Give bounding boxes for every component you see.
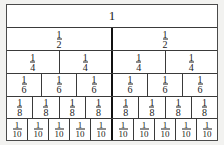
row-tenths-cell: 110	[28, 119, 49, 140]
fraction-numerator: 1	[15, 121, 20, 129]
fraction-label: 18	[70, 98, 75, 117]
fraction-label: 110	[119, 121, 128, 138]
fraction-numerator: 1	[142, 121, 147, 129]
fraction-label: 16	[163, 75, 168, 94]
fraction-denominator: 2	[163, 38, 168, 48]
row-eighths-cell: 18	[33, 97, 59, 119]
fraction-label: 110	[34, 121, 43, 138]
row-tenths-cell: 110	[91, 119, 113, 140]
row-sixths-cell: 16	[183, 74, 217, 96]
fraction-denominator: 2	[57, 38, 62, 48]
fraction-label: 18	[17, 98, 22, 117]
fraction-wall-diagram: 1121214141414161616161616181818181818181…	[0, 0, 224, 145]
row-sixths-cell: 16	[42, 74, 77, 96]
row-halves: 1212	[7, 28, 217, 52]
fraction-label: 110	[76, 121, 85, 138]
fraction-denominator: 8	[43, 107, 48, 117]
fraction-numerator: 1	[22, 75, 27, 84]
fraction-numerator: 1	[96, 98, 101, 107]
fraction-denominator: 8	[96, 107, 101, 117]
fraction-label: 16	[128, 75, 133, 94]
fraction-denominator: 10	[55, 129, 64, 138]
row-tenths-cell: 110	[49, 119, 70, 140]
row-halves-cell: 12	[7, 28, 113, 51]
fraction-denominator: 4	[136, 61, 141, 71]
fraction-numerator: 1	[123, 98, 128, 107]
fraction-denominator: 8	[176, 107, 181, 117]
fraction-denominator: 10	[13, 129, 22, 138]
fraction-numerator: 1	[70, 98, 75, 107]
fraction-denominator: 8	[123, 107, 128, 117]
row-tenths-cell: 110	[197, 119, 217, 140]
row-eighths-cell: 18	[86, 97, 113, 119]
fraction-denominator: 8	[70, 107, 75, 117]
fraction-label: 14	[136, 52, 141, 71]
fraction-numerator: 1	[92, 75, 97, 84]
fraction-label: 18	[123, 98, 128, 117]
fraction-label: 16	[198, 75, 203, 94]
row-quarters: 14141414	[7, 51, 217, 74]
fraction-denominator: 10	[182, 129, 191, 138]
row-eighths-cell: 18	[7, 97, 33, 119]
row-quarters-cell: 14	[60, 51, 114, 73]
row-eighths-cell: 18	[113, 97, 139, 119]
fraction-label: 18	[43, 98, 48, 117]
fraction-denominator: 6	[22, 84, 27, 94]
fraction-denominator: 4	[30, 61, 35, 71]
fraction-numerator: 1	[83, 52, 88, 61]
fraction-label: 16	[57, 75, 62, 94]
row-tenths-cell: 110	[113, 119, 134, 140]
fraction-denominator: 6	[57, 84, 62, 94]
row-eighths-cell: 18	[166, 97, 192, 119]
fraction-numerator: 1	[43, 98, 48, 107]
fraction-numerator: 1	[163, 75, 168, 84]
fraction-numerator: 1	[205, 121, 210, 129]
fraction-numerator: 1	[136, 52, 141, 61]
fraction-denominator: 4	[189, 61, 194, 71]
fraction-label: 110	[97, 121, 106, 138]
fraction-numerator: 1	[36, 121, 41, 129]
row-tenths-cell: 110	[7, 119, 28, 140]
row-halves-cell: 12	[113, 28, 217, 51]
row-quarters-cell: 14	[7, 51, 60, 73]
fraction-numerator: 1	[17, 98, 22, 107]
fraction-numerator: 1	[78, 121, 83, 129]
fraction-numerator: 1	[189, 52, 194, 61]
row-quarters-cell: 14	[113, 51, 166, 73]
fraction-label: 16	[92, 75, 97, 94]
row-eighths-cell: 18	[139, 97, 165, 119]
row-sixths: 161616161616	[7, 74, 217, 97]
fraction-numerator: 1	[184, 121, 189, 129]
fraction-label: 12	[163, 29, 168, 48]
fraction-denominator: 8	[149, 107, 154, 117]
fraction-numerator: 1	[57, 121, 62, 129]
fraction-label: 14	[189, 52, 194, 71]
fraction-denominator: 4	[83, 61, 88, 71]
fraction-numerator: 1	[176, 98, 181, 107]
fraction-numerator: 1	[57, 75, 62, 84]
fraction-label: 110	[182, 121, 191, 138]
fraction-label: 12	[57, 29, 62, 48]
whole-label: 1	[109, 9, 116, 22]
fraction-numerator: 1	[149, 98, 154, 107]
fraction-label: 110	[161, 121, 170, 138]
row-eighths-cell: 18	[60, 97, 86, 119]
row-whole-cell: 1	[7, 5, 217, 27]
fraction-label: 18	[176, 98, 181, 117]
fraction-numerator: 1	[163, 29, 168, 38]
row-tenths-cell: 110	[176, 119, 197, 140]
fraction-numerator: 1	[121, 121, 126, 129]
fraction-label: 14	[83, 52, 88, 71]
fraction-wall-frame: 1121214141414161616161616181818181818181…	[6, 4, 218, 141]
row-whole: 1	[7, 5, 217, 28]
fraction-label: 18	[202, 98, 207, 117]
row-sixths-cell: 16	[113, 74, 148, 96]
fraction-numerator: 1	[57, 29, 62, 38]
fraction-denominator: 8	[202, 107, 207, 117]
row-eighths: 1818181818181818	[7, 97, 217, 120]
fraction-label: 110	[203, 121, 212, 138]
row-sixths-cell: 16	[77, 74, 113, 96]
fraction-denominator: 6	[163, 84, 168, 94]
fraction-label: 18	[96, 98, 101, 117]
fraction-denominator: 10	[97, 129, 106, 138]
